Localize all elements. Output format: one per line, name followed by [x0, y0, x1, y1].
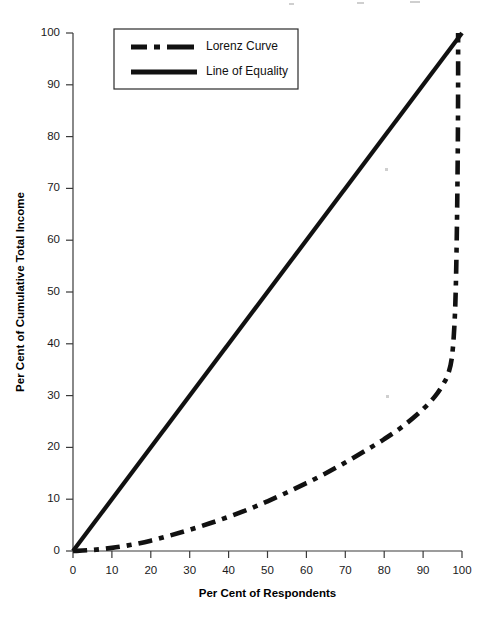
lorenz-curve-figure: 100 90 80 70 60 50 40 30 20 10 0 Per Cen…	[0, 0, 492, 628]
x-tick-label-60: 60	[300, 564, 313, 576]
x-tick-label-10: 10	[106, 564, 119, 576]
y-tick-label-0: 0	[54, 544, 60, 556]
y-tick-label-40: 40	[47, 337, 60, 349]
y-tick-label-100: 100	[41, 26, 60, 38]
x-axis-title: Per Cent of Respondents	[199, 587, 336, 599]
y-tick-label-90: 90	[47, 78, 60, 90]
legend-label-lorenz-curve: Lorenz Curve	[206, 39, 278, 53]
x-tick-label-50: 50	[261, 564, 274, 576]
scan-artifacts	[289, 1, 420, 398]
x-tick-label-80: 80	[378, 564, 391, 576]
x-tick-label-40: 40	[222, 564, 235, 576]
legend-box	[114, 29, 298, 89]
y-tick-label-10: 10	[47, 492, 60, 504]
y-tick-label-30: 30	[47, 389, 60, 401]
x-tick-label-20: 20	[144, 564, 157, 576]
x-tick-label-70: 70	[339, 564, 352, 576]
x-tick-label-0: 0	[70, 564, 76, 576]
series-line-of-equality	[73, 33, 462, 551]
x-tick-label-100: 100	[452, 564, 471, 576]
y-tick-label-20: 20	[47, 440, 60, 452]
x-tick-label-90: 90	[417, 564, 430, 576]
y-axis-title: Per Cent of Cumulative Total Income	[14, 192, 26, 392]
chart-canvas: 100 90 80 70 60 50 40 30 20 10 0 Per Cen…	[0, 0, 492, 628]
plot-series	[73, 33, 462, 551]
y-tick-label-80: 80	[47, 130, 60, 142]
x-tick-label-30: 30	[183, 564, 196, 576]
y-tick-label-50: 50	[47, 285, 60, 297]
y-tick-label-60: 60	[47, 233, 60, 245]
y-axis: 100 90 80 70 60 50 40 30 20 10 0 Per Cen…	[14, 26, 73, 556]
legend-label-line-of-equality: Line of Equality	[206, 64, 288, 78]
y-tick-label-70: 70	[47, 181, 60, 193]
x-axis: 0 10 20 30 40 50 60 70 80 90 100 Per Cen…	[70, 551, 472, 599]
legend: Lorenz Curve Line of Equality	[114, 29, 298, 89]
